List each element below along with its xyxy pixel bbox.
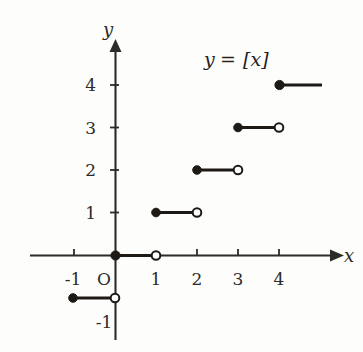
y-tick-label-3: 3	[85, 118, 96, 138]
x-tick-label--1: -1	[65, 269, 82, 289]
closed-point-0-0	[111, 251, 120, 260]
origin-label: O	[97, 269, 111, 289]
closed-point-3-3	[234, 123, 243, 132]
equation-lhs: y	[203, 48, 215, 70]
y-tick-label-2: 2	[85, 160, 96, 180]
closed-point-2-2	[193, 166, 202, 175]
y-axis-label: y	[102, 19, 114, 40]
x-axis-arrowhead	[330, 250, 344, 262]
x-axis-label: x	[344, 245, 354, 266]
closed-point-1-1	[152, 208, 161, 217]
open-point-2-1	[193, 208, 202, 217]
y-axis-arrowhead	[110, 39, 122, 52]
y-tick-label-1: 1	[85, 203, 96, 223]
y-tick-label-4: 4	[85, 75, 96, 95]
x-tick-label-2: 2	[192, 269, 203, 289]
floor-function-figure: y x O -1 1 2 3 4 4 3 2 1 -1	[0, 0, 363, 352]
step-segments	[73, 85, 322, 298]
open-point-1-0	[152, 251, 161, 260]
equation-operator: =	[220, 48, 236, 70]
open-point-0--1	[111, 294, 120, 303]
open-point-4-3	[275, 123, 284, 132]
x-tick-label-1: 1	[151, 269, 162, 289]
closed-point-4-4	[275, 80, 284, 89]
open-point-3-2	[234, 166, 243, 175]
equation-label: y = [x]	[203, 48, 269, 70]
equation-rhs: [x]	[243, 48, 269, 70]
closed-point--1--1	[69, 294, 78, 303]
x-tick-label-3: 3	[233, 269, 244, 289]
x-tick-label-4: 4	[274, 269, 285, 289]
graph-canvas: y x O -1 1 2 3 4 4 3 2 1 -1	[0, 0, 363, 352]
y-tick-label--1: -1	[96, 312, 113, 332]
